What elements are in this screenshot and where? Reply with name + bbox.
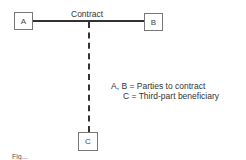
party-b-label: B <box>151 18 156 27</box>
contract-label: Contract <box>71 9 103 19</box>
beneficiary-dashed-line <box>88 22 90 132</box>
beneficiary-c-box: C <box>78 132 98 151</box>
figure-caption: Fig... <box>12 153 28 160</box>
legend-parties: A, B = Parties to contract <box>111 81 205 91</box>
beneficiary-c-label: C <box>85 137 91 146</box>
party-a-box: A <box>14 12 33 30</box>
party-b-box: B <box>144 13 163 31</box>
party-a-label: A <box>21 17 26 26</box>
legend-beneficiary: C = Third-part beneficiary <box>123 91 219 101</box>
